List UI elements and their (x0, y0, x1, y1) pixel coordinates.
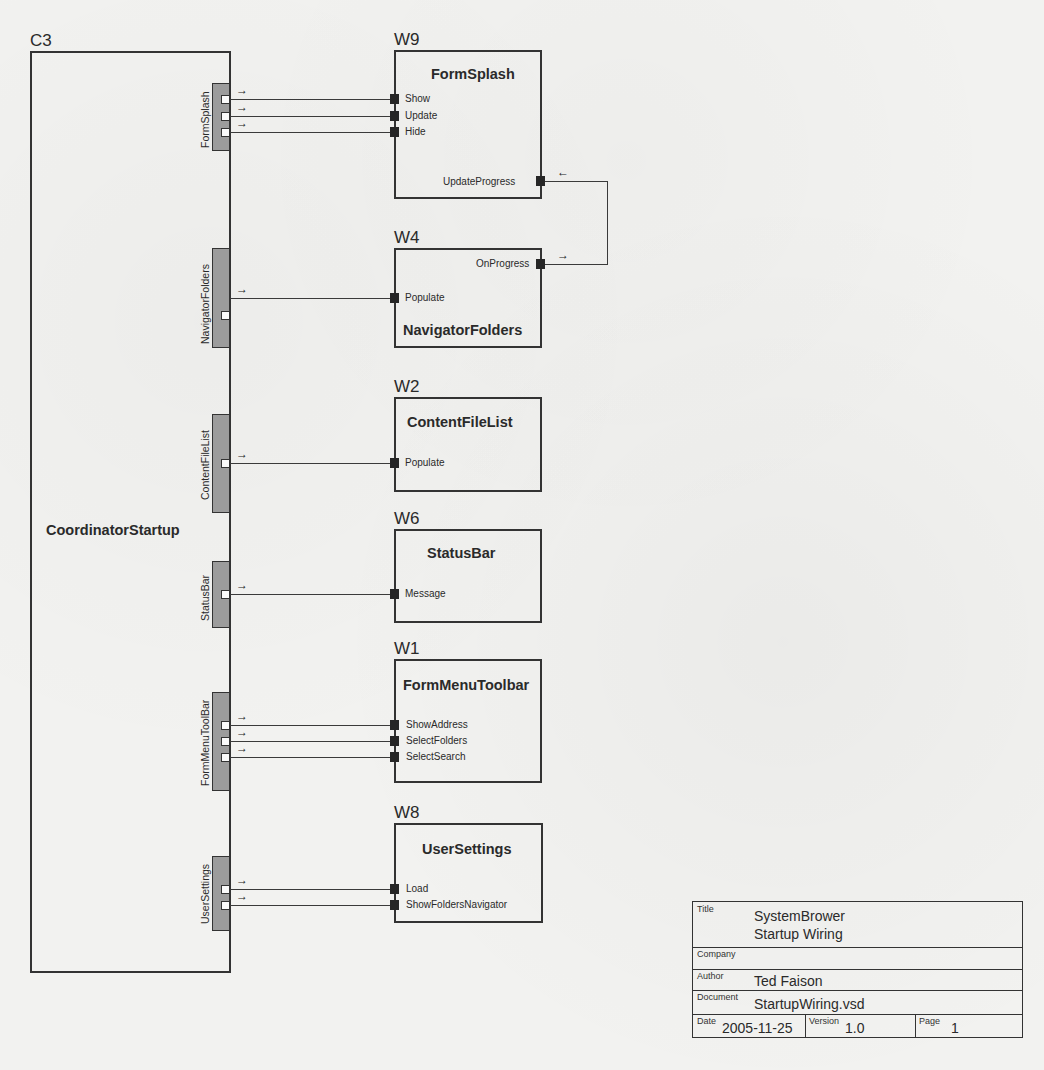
wire-hide[interactable] (230, 132, 394, 133)
port-label-hide: Hide (405, 126, 426, 137)
input-port[interactable] (390, 884, 399, 894)
component-id-w1: W1 (394, 639, 420, 659)
component-name-navigatorfolders: NavigatorFolders (403, 322, 522, 338)
wire-selectsearch[interactable] (230, 757, 394, 758)
port-strip-label-formsplash: FormSplash (199, 91, 211, 148)
input-port[interactable] (536, 176, 545, 186)
company-row: Company (693, 948, 1022, 970)
arrow-right-icon: → (236, 727, 248, 737)
version-value: 1.0 (845, 1020, 864, 1036)
port-strip-label-usersettings: UserSettings (199, 864, 211, 924)
input-port[interactable] (390, 720, 399, 730)
output-port[interactable] (221, 737, 230, 746)
wire-progress-vertical[interactable] (607, 181, 608, 265)
wire-showfoldersnavigator[interactable] (230, 905, 394, 906)
arrow-right-icon: → (236, 118, 248, 128)
component-id-w9: W9 (394, 30, 420, 50)
port-strip-label-statusbar: StatusBar (199, 575, 211, 621)
arrow-right-icon: → (236, 711, 248, 721)
divider (915, 1015, 916, 1037)
page-value: 1 (951, 1020, 959, 1036)
output-port[interactable] (221, 112, 230, 121)
document-caption: Document (697, 992, 738, 1002)
wire-load[interactable] (230, 889, 394, 890)
output-port[interactable] (221, 128, 230, 137)
arrow-right-icon: → (236, 891, 248, 901)
wire-showaddress[interactable] (230, 725, 394, 726)
output-port[interactable] (221, 311, 230, 320)
coordinator-name: CoordinatorStartup (46, 522, 180, 538)
coordinator-id: C3 (30, 31, 52, 51)
arrow-right-icon: → (557, 250, 569, 260)
wire-message[interactable] (230, 594, 394, 595)
divider (805, 1015, 806, 1037)
input-port[interactable] (390, 736, 399, 746)
arrow-right-icon: → (236, 284, 248, 294)
port-strip-label-navigatorfolders: NavigatorFolders (199, 264, 211, 344)
component-id-w8: W8 (394, 803, 420, 823)
output-port[interactable] (221, 721, 230, 730)
date-row: Date 2005-11-25 Version 1.0 Page 1 (693, 1015, 1022, 1037)
output-port[interactable] (221, 590, 230, 599)
wire-show[interactable] (230, 99, 394, 100)
arrow-right-icon: → (236, 85, 248, 95)
component-name-formmenutoolbar: FormMenuToolbar (403, 677, 529, 693)
input-port[interactable] (390, 94, 399, 104)
arrow-left-icon: ← (557, 167, 569, 177)
port-label-updateprogress: UpdateProgress (443, 176, 515, 187)
port-label-populate: Populate (405, 292, 444, 303)
port-label-message: Message (405, 588, 446, 599)
arrow-right-icon: → (236, 875, 248, 885)
port-strip-label-formmenutoolbar: FormMenuToolBar (199, 700, 211, 786)
output-port[interactable] (221, 753, 230, 762)
wire-progress-top[interactable] (545, 181, 607, 182)
author-caption: Author (697, 971, 724, 981)
document-value: StartupWiring.vsd (754, 996, 864, 1012)
component-box-statusbar[interactable] (394, 529, 542, 623)
port-label-showaddress: ShowAddress (406, 719, 468, 730)
component-name-usersettings: UserSettings (422, 841, 511, 857)
port-strip-navigatorfolders[interactable] (212, 248, 230, 348)
document-row: Document StartupWiring.vsd (693, 991, 1022, 1015)
input-port[interactable] (390, 293, 399, 303)
output-port[interactable] (536, 259, 545, 269)
port-strip-label-contentfilelist: ContentFileList (199, 430, 211, 500)
port-label-showfoldersnavigator: ShowFoldersNavigator (406, 899, 507, 910)
arrow-right-icon: → (236, 102, 248, 112)
wire-update[interactable] (230, 116, 394, 117)
output-port[interactable] (221, 95, 230, 104)
version-caption: Version (809, 1016, 839, 1026)
component-name-statusbar: StatusBar (427, 545, 496, 561)
date-caption: Date (697, 1016, 716, 1026)
title-line-2: Startup Wiring (754, 926, 843, 942)
wire-navigator-populate[interactable] (230, 298, 394, 299)
title-row: Title SystemBrower Startup Wiring (693, 902, 1022, 948)
title-line-1: SystemBrower (754, 908, 845, 924)
page-caption: Page (919, 1016, 940, 1026)
input-port[interactable] (390, 752, 399, 762)
wire-selectfolders[interactable] (230, 741, 394, 742)
output-port[interactable] (221, 901, 230, 910)
company-caption: Company (697, 949, 736, 959)
component-id-w6: W6 (394, 509, 420, 529)
wire-progress-bottom[interactable] (545, 264, 608, 265)
wire-contentfilelist-populate[interactable] (230, 463, 394, 464)
author-row: Author Ted Faison (693, 970, 1022, 991)
input-port[interactable] (390, 900, 399, 910)
port-label-load: Load (406, 883, 428, 894)
input-port[interactable] (390, 589, 399, 599)
input-port[interactable] (390, 458, 399, 468)
port-label-selectsearch: SelectSearch (406, 751, 465, 762)
component-box-contentfilelist[interactable] (394, 397, 542, 492)
port-label-populate: Populate (405, 457, 444, 468)
coordinator-box[interactable] (30, 51, 231, 973)
input-port[interactable] (390, 127, 399, 137)
title-caption: Title (697, 904, 714, 914)
output-port[interactable] (221, 885, 230, 894)
component-name-formsplash: FormSplash (431, 66, 515, 82)
port-label-onprogress: OnProgress (476, 258, 529, 269)
author-value: Ted Faison (754, 973, 822, 989)
input-port[interactable] (390, 111, 399, 121)
output-port[interactable] (221, 459, 230, 468)
component-name-contentfilelist: ContentFileList (407, 414, 513, 430)
